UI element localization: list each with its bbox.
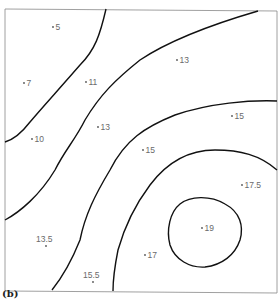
spot-height-13-5: 13.5 bbox=[36, 234, 53, 247]
svg-text:15.5: 15.5 bbox=[83, 270, 100, 280]
svg-text:7: 7 bbox=[27, 78, 32, 88]
contour-2 bbox=[5, 11, 258, 220]
svg-text:15: 15 bbox=[146, 145, 156, 155]
spot-height-7: 7 bbox=[23, 78, 31, 88]
spot-height-11: 11 bbox=[85, 77, 97, 87]
spot-heights: 5711131013151517.51913.515.517 bbox=[23, 22, 261, 283]
contour-map: 5711131013151517.51913.515.517 bbox=[0, 0, 278, 303]
contour-lines bbox=[5, 9, 277, 291]
spot-height-17: 17 bbox=[144, 250, 157, 260]
svg-text:5: 5 bbox=[56, 22, 61, 32]
svg-text:13: 13 bbox=[101, 122, 111, 132]
spot-height-5: 5 bbox=[52, 22, 60, 32]
figure-caption: (b) bbox=[2, 288, 18, 299]
svg-text:13: 13 bbox=[180, 55, 190, 65]
svg-text:15: 15 bbox=[235, 111, 245, 121]
spot-height-15: 15 bbox=[142, 145, 155, 155]
spot-height-13: 13 bbox=[97, 122, 110, 132]
svg-text:10: 10 bbox=[35, 134, 45, 144]
svg-text:17: 17 bbox=[148, 250, 158, 260]
svg-text:11: 11 bbox=[89, 77, 98, 87]
svg-text:13.5: 13.5 bbox=[36, 234, 53, 244]
spot-height-10: 10 bbox=[31, 134, 44, 144]
spot-height-17-5: 17.5 bbox=[241, 180, 261, 190]
svg-text:19: 19 bbox=[205, 223, 215, 233]
spot-height-19: 19 bbox=[201, 223, 214, 233]
contour-3 bbox=[52, 101, 277, 290]
spot-height-15: 15 bbox=[231, 111, 244, 121]
spot-height-13: 13 bbox=[176, 55, 189, 65]
spot-height-15-5: 15.5 bbox=[83, 270, 100, 283]
svg-text:17.5: 17.5 bbox=[245, 180, 262, 190]
contour-4 bbox=[113, 150, 277, 291]
